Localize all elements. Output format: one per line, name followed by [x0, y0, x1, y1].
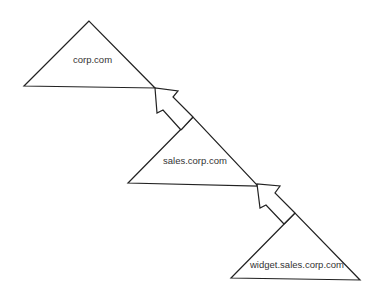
triangle-sales [128, 117, 258, 186]
node-label-sales: sales.corp.com [163, 155, 227, 166]
node-label-corp: corp.com [73, 54, 112, 65]
domain-tree-diagram [0, 0, 379, 296]
node-label-widget: widget.sales.corp.com [250, 259, 344, 270]
